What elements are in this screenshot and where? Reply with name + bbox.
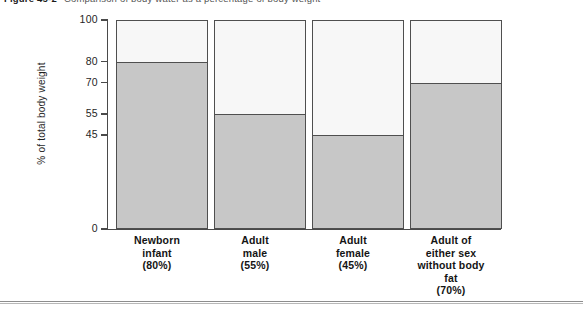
x-label-adult-no-body-fat: Adult ofeither sexwithout bodyfat(70%) — [392, 234, 510, 297]
y-tick-70 — [101, 82, 108, 83]
y-tick-label-55: 55 — [68, 107, 98, 119]
y-tick-80 — [101, 61, 108, 62]
x-label-line: (70%) — [392, 284, 510, 297]
y-tick-label-80: 80 — [68, 55, 98, 67]
bar-fill-adult-male — [214, 114, 306, 229]
y-axis-title: % of total body weight — [36, 39, 47, 189]
bar-adult-no-body-fat[interactable] — [410, 20, 502, 229]
x-label-line: either sex — [392, 247, 510, 260]
bar-chart: % of total body weight 045557080100 Newb… — [0, 0, 583, 325]
y-tick-label-45: 45 — [68, 128, 98, 140]
bar-fill-adult-no-body-fat — [410, 83, 502, 229]
bar-fill-newborn-infant — [116, 62, 208, 229]
x-label-line: Adult of — [392, 234, 510, 247]
x-label-line: without body — [392, 259, 510, 272]
y-tick-label-0: 0 — [68, 222, 98, 234]
y-tick-45 — [101, 134, 108, 135]
footer-rule-top — [0, 301, 583, 302]
bar-newborn-infant[interactable] — [116, 20, 208, 229]
y-tick-55 — [101, 113, 108, 114]
bar-adult-male[interactable] — [214, 20, 306, 229]
y-tick-0 — [101, 228, 108, 229]
y-tick-label-100: 100 — [68, 13, 98, 25]
bar-fill-adult-female — [312, 135, 404, 229]
bar-adult-female[interactable] — [312, 20, 404, 229]
plot-area — [108, 20, 500, 229]
x-label-line: fat — [392, 272, 510, 285]
y-tick-label-70: 70 — [68, 76, 98, 88]
footer-rule-bottom — [0, 303, 583, 304]
y-tick-100 — [101, 19, 108, 20]
